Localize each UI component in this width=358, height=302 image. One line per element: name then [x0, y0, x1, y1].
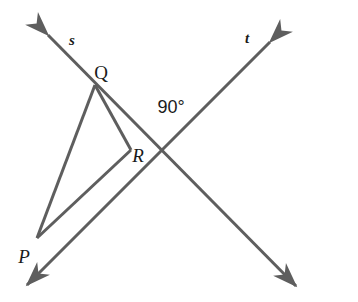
- segment-q-r: [95, 85, 131, 150]
- line-t: [27, 42, 270, 285]
- line-s: [48, 35, 296, 286]
- segment-p-q: [37, 85, 95, 238]
- geometry-canvas: [0, 0, 358, 302]
- geometry-figure: s t Q R P 90°: [0, 0, 358, 302]
